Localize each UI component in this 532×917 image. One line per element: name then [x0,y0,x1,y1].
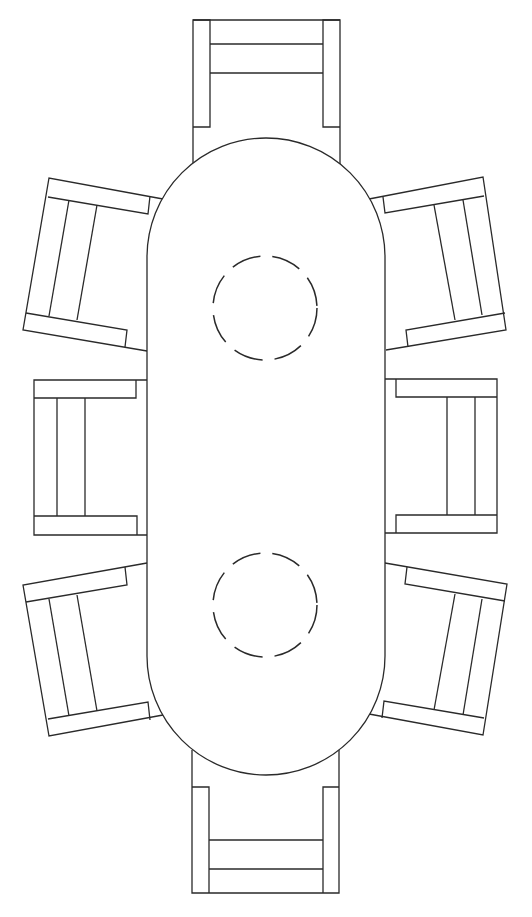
chair-detail-line [34,380,136,398]
chair-outline [23,563,163,736]
chair-detail-line [383,196,484,213]
chair-detail-line [406,313,505,347]
chair-detail-line [48,702,150,720]
chair-outline [385,379,497,533]
chair-left-upper [23,178,163,351]
chair-detail-line [193,20,210,127]
chair-detail-line [77,595,97,711]
chair-detail-line [396,379,497,397]
chair-outline [34,380,147,535]
chair-detail-line [463,599,482,715]
chair-detail-line [434,205,455,320]
chair-detail-line [34,516,137,535]
chair-detail-line [77,205,97,320]
chair-right-middle [385,379,497,533]
chair-detail-line [382,701,484,718]
chair-detail-line [192,787,209,893]
chair-right-lower [369,563,507,735]
chair-detail-line [26,313,127,347]
chair-right-upper [369,177,506,350]
chair-left-middle [34,380,147,535]
chair-detail-line [49,200,69,316]
table-top [147,138,385,775]
chair-detail-line [26,567,127,602]
dining-table-plan-drawing: Dining table with eight chairs (plan vie… [0,0,532,917]
chair-detail-line [434,594,455,710]
chair-detail-line [323,20,340,127]
chair-detail-line [463,200,482,315]
chair-detail-line [396,515,497,533]
chair-detail-line [323,787,339,893]
chair-detail-line [48,196,150,214]
chair-outline [23,178,163,351]
chair-outline [369,563,507,735]
chair-left-lower [23,563,163,736]
chair-detail-line [49,599,69,716]
